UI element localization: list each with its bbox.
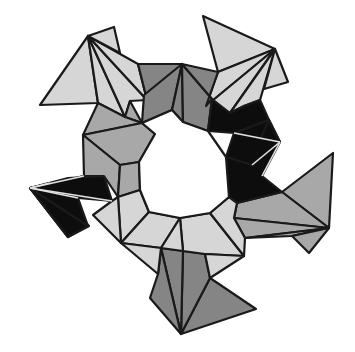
polyhedral-ring-diagram [0,0,355,352]
ring-bottom-right-c [205,254,244,278]
diagram-svg [0,0,355,352]
ring-bottom-left-b [93,197,121,243]
ring-bottom-left-d [121,243,161,274]
